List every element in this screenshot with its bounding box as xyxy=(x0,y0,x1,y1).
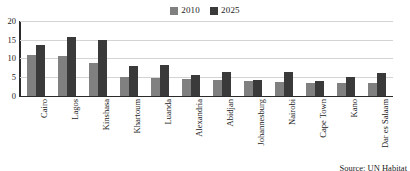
chart-legend: 2010 2025 xyxy=(0,4,410,17)
x-label-cell: Alexandria xyxy=(176,99,207,161)
x-label-cell: Kano xyxy=(330,99,361,161)
bar-2010 xyxy=(213,80,222,96)
x-axis-label-text: Lagos xyxy=(71,99,80,120)
x-label-cell: Abidjan xyxy=(207,99,238,161)
x-axis-label-text: Johannesburg xyxy=(256,99,265,146)
x-axis-label-text: Kinshasa xyxy=(102,99,111,130)
legend-swatch-2025 xyxy=(210,7,218,15)
x-axis-label: Lagos xyxy=(71,78,80,99)
bar-2010 xyxy=(89,63,98,95)
bar-2010 xyxy=(306,83,315,96)
x-axis-label: Dar es Salaam xyxy=(380,50,389,99)
x-axis-label-text: Cairo xyxy=(40,99,49,118)
x-label-cell: Nairobi xyxy=(268,99,299,161)
x-axis-label: Kinshasa xyxy=(102,68,111,99)
bar-2010 xyxy=(244,81,253,95)
x-label-cell: Khartoum xyxy=(114,99,145,161)
x-axis-label: Cairo xyxy=(40,80,49,99)
bar-2010 xyxy=(182,79,191,95)
bar-2010 xyxy=(27,55,36,96)
x-label-cell: Luanda xyxy=(145,99,176,161)
x-label-cell: Kinshasa xyxy=(83,99,114,161)
x-label-cell: Cape Town xyxy=(299,99,330,161)
x-axis-label: Luanda xyxy=(164,74,173,100)
source-note: Source: UN Habitat xyxy=(339,164,407,171)
x-axis-label-text: Cape Town xyxy=(318,99,327,138)
y-axis-tick-10: 10 xyxy=(1,54,16,62)
legend-entry-2010: 2010 xyxy=(170,6,200,15)
x-axis-label: Alexandria xyxy=(195,61,204,99)
legend-label-2025: 2025 xyxy=(221,6,240,15)
x-axis-label-text: Abidjan xyxy=(225,99,234,126)
x-axis-label-text: Khartoum xyxy=(133,99,142,133)
bar-2010 xyxy=(58,56,67,95)
x-axis-category-labels: CairoLagosKinshasaKhartoumLuandaAlexandr… xyxy=(21,99,392,161)
x-axis-label: Nairobi xyxy=(287,73,296,99)
x-label-cell: Johannesburg xyxy=(237,99,268,161)
x-axis-label: Khartoum xyxy=(133,65,142,99)
y-axis-tick-20: 20 xyxy=(1,17,16,25)
legend-label-2010: 2010 xyxy=(181,6,200,15)
x-label-cell: Lagos xyxy=(52,99,83,161)
x-label-cell: Cairo xyxy=(21,99,52,161)
legend-entry-2025: 2025 xyxy=(210,6,240,15)
bar-2010 xyxy=(151,78,160,96)
y-axis-tick-labels: 20151050 xyxy=(0,21,16,97)
x-axis-label-text: Dar es Salaam xyxy=(380,99,389,148)
x-axis-label-text: Kano xyxy=(349,99,358,117)
x-axis-label-text: Alexandria xyxy=(195,99,204,137)
legend-swatch-2010 xyxy=(170,7,178,15)
bar-chart: 2010 2025 20151050 CairoLagosKinshasaKha… xyxy=(0,0,410,171)
x-axis-label: Kano xyxy=(349,81,358,99)
x-label-cell: Dar es Salaam xyxy=(361,99,392,161)
x-axis-label-text: Luanda xyxy=(164,99,173,125)
y-axis-tick-5: 5 xyxy=(1,73,16,81)
bar-2010 xyxy=(120,77,129,96)
x-axis-label: Cape Town xyxy=(318,60,327,99)
x-axis-label: Johannesburg xyxy=(256,52,265,99)
bar-2010 xyxy=(275,82,284,95)
bar-2010 xyxy=(368,83,377,96)
bar-2010 xyxy=(337,83,346,96)
y-axis-tick-15: 15 xyxy=(1,36,16,44)
y-axis-tick-0: 0 xyxy=(1,92,16,100)
x-axis-label: Abidjan xyxy=(225,72,234,99)
x-axis-label-text: Nairobi xyxy=(287,99,296,125)
